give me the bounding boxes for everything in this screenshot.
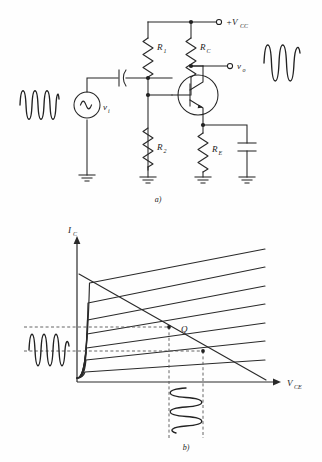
- curve-ib2: [77, 341, 265, 378]
- label-vo-sub: o: [243, 67, 246, 73]
- x-axis-label-sub: CE: [294, 384, 302, 390]
- ac-voltage-source: [74, 92, 100, 118]
- emitter-arrow: [198, 105, 204, 109]
- label-vo: v: [237, 61, 241, 71]
- source-ground-symbol: [79, 120, 95, 181]
- npn-transistor: [172, 66, 218, 125]
- label-rc-sub: C: [207, 48, 212, 54]
- panel-b-label: b): [183, 443, 190, 452]
- re-ground-symbol: [195, 172, 211, 183]
- label-r1-sub: 1: [164, 48, 167, 54]
- output-sine-waveform: [264, 45, 300, 81]
- y-axis-label: I: [67, 225, 72, 235]
- vcc-junction-node: [189, 20, 193, 24]
- y-axis-arrow: [74, 236, 81, 244]
- chart-axes: [74, 236, 281, 385]
- curve-ib7: [77, 249, 265, 378]
- resistor-rc: [186, 38, 196, 77]
- label-re: R: [211, 144, 218, 154]
- curve-ib1: [77, 360, 265, 378]
- collector-characteristic-curves: [77, 249, 265, 378]
- swing-upper-point: [167, 325, 171, 329]
- label-r1: R: [156, 42, 163, 52]
- source-label-vi-sub: i: [108, 108, 110, 114]
- ib-input-sine-waveform: [29, 334, 69, 366]
- input-sine-waveform: [20, 91, 59, 120]
- vce-output-sine-waveform: [170, 388, 202, 433]
- q-point-label: Q: [181, 324, 188, 334]
- label-rc: R: [199, 42, 206, 52]
- label-r2-sub: 2: [164, 148, 167, 154]
- label-r2: R: [156, 142, 163, 152]
- panel-a-label: a): [155, 195, 162, 204]
- y-axis-label-sub: C: [73, 231, 78, 237]
- curve-ib4: [77, 304, 265, 378]
- vo-terminal: [227, 63, 232, 68]
- source-label-vi: v: [103, 102, 107, 112]
- x-axis-arrow: [273, 379, 281, 386]
- source-to-coupling-cap-wire: [87, 78, 118, 92]
- figure-root: v i R 1 R 2 R C: [0, 0, 322, 462]
- label-vcc: +V: [226, 17, 239, 27]
- circuit-diagram-panel-a: v i R 1 R 2 R C: [0, 0, 322, 210]
- base-bias-node: [146, 76, 150, 80]
- label-re-sub: E: [218, 150, 223, 156]
- bypass-cap-top-wire: [203, 125, 247, 143]
- resistor-r1: [143, 38, 153, 77]
- resistor-re: [198, 133, 208, 172]
- x-axis-label: V: [287, 378, 294, 388]
- characteristic-curves-panel-b: I C V CE Q: [0, 210, 322, 462]
- bypass-capacitor: [238, 143, 256, 151]
- swing-lower-point: [201, 349, 205, 353]
- bypass-cap-ground-symbol: [239, 151, 255, 183]
- coupling-capacitor: [119, 70, 126, 86]
- label-vcc-sub: CC: [240, 23, 249, 29]
- r2-ground-symbol: [140, 167, 156, 183]
- vcc-terminal: [216, 19, 221, 24]
